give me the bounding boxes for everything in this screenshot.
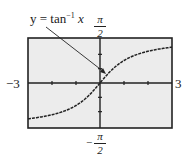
y-min-sign: −: [86, 137, 92, 148]
function-label-text: y = tan: [30, 11, 66, 26]
function-label: y = tan−1 x: [30, 12, 84, 25]
function-label-variable: x: [78, 11, 84, 26]
y-min-denominator: 2: [94, 145, 106, 156]
function-label-exponent: −1: [66, 11, 75, 20]
y-max-label: π 2: [94, 14, 106, 39]
y-min-numerator: π: [94, 131, 106, 142]
y-max-denominator: 2: [94, 28, 106, 39]
x-max-label: 3: [175, 77, 182, 90]
x-min-label: −3: [6, 77, 20, 90]
y-min-label: π 2: [94, 131, 106, 156]
y-max-numerator: π: [94, 14, 106, 25]
chart-plot: [0, 0, 184, 158]
